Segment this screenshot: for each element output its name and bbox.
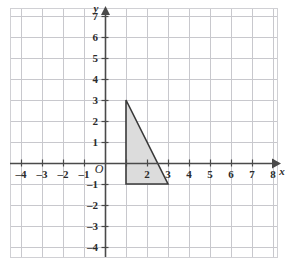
- y-axis-label: y: [92, 2, 99, 14]
- origin-label: O: [95, 162, 104, 176]
- x-axis-tick-label: 2: [144, 168, 150, 180]
- x-axis-tick-label: 5: [207, 168, 213, 180]
- y-axis-tick-label: –1: [86, 178, 98, 190]
- y-axis-tick-label: –4: [86, 241, 99, 253]
- y-axis-tick-label: 4: [93, 73, 99, 85]
- coordinate-plane-svg: –4–3–2–156782347654321–1–2–3–4Oyx: [0, 0, 287, 265]
- x-axis-tick-label: 8: [270, 168, 276, 180]
- x-axis-label: x: [278, 165, 285, 177]
- x-axis-tick-label: 4: [186, 168, 192, 180]
- coordinate-plane-figure: –4–3–2–156782347654321–1–2–3–4Oyx: [0, 0, 287, 265]
- y-axis-tick-label: 6: [93, 31, 99, 43]
- x-axis-tick-label: –2: [57, 168, 70, 180]
- y-axis-tick-label: 1: [93, 136, 99, 148]
- y-axis-tick-label: 3: [93, 94, 99, 106]
- figure-background: [0, 0, 287, 265]
- y-axis-tick-label: 5: [93, 52, 99, 64]
- x-axis-tick-label: 6: [228, 168, 234, 180]
- x-axis-tick-label: 3: [165, 168, 171, 180]
- x-axis-tick-label: 7: [249, 168, 255, 180]
- y-axis-tick-label: –2: [86, 199, 99, 211]
- y-axis-tick-label: –3: [86, 220, 99, 232]
- x-axis-tick-label: –4: [15, 168, 28, 180]
- x-axis-tick-label: –3: [36, 168, 49, 180]
- y-axis-tick-label: 2: [93, 115, 99, 127]
